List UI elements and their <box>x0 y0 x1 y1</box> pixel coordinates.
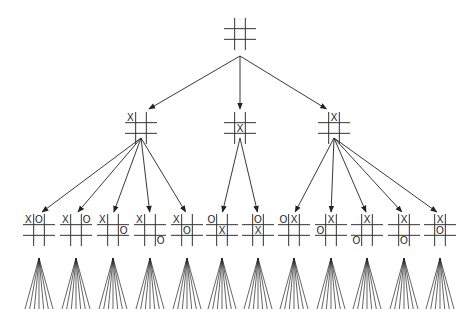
fan-line <box>258 258 267 309</box>
tree-boards: XXXXOXOXOXOXOOXOXOXXOXOXOXO <box>23 18 456 246</box>
subtree-fan <box>244 258 272 309</box>
level2-board: OX <box>278 214 310 246</box>
subtree-fan <box>136 258 164 309</box>
fan-line <box>178 258 187 309</box>
x-mark: X <box>364 214 371 225</box>
tree-edge-arrow <box>223 138 240 212</box>
tree-edge-arrow <box>114 138 141 212</box>
fan-line <box>331 258 340 309</box>
o-mark: O <box>279 214 287 225</box>
x-mark: X <box>237 123 244 134</box>
level2-board: XO <box>388 214 420 246</box>
level2-board: XO <box>23 214 55 246</box>
x-mark: X <box>291 214 298 225</box>
subtree-fan <box>280 258 308 309</box>
tree-edge-arrow <box>331 138 334 212</box>
x-mark: X <box>255 225 262 236</box>
tree-edge-arrow <box>141 138 150 212</box>
tree-edge-arrow <box>295 138 334 212</box>
level2-board: XO <box>97 214 129 246</box>
x-mark: X <box>331 112 338 123</box>
subtree-fan <box>208 258 236 309</box>
subtree-fans <box>25 258 454 309</box>
x-mark: X <box>127 112 134 123</box>
game-tree-diagram: XXXXOXOXOXOXOOXOXOXXOXOXOXO <box>0 0 475 330</box>
fan-line <box>213 258 222 309</box>
o-mark: O <box>352 235 360 246</box>
x-mark: X <box>62 214 69 225</box>
fan-line <box>76 258 85 309</box>
fan-line <box>431 258 440 309</box>
subtree-fan <box>173 258 201 309</box>
root-board <box>224 18 256 50</box>
tree-edge-arrow <box>334 138 402 212</box>
fan-line <box>222 258 231 309</box>
fan-line <box>440 258 449 309</box>
fan-line <box>322 258 331 309</box>
tree-edge-arrow <box>240 56 326 109</box>
subtree-fan <box>62 258 90 309</box>
level2-board: XO <box>351 214 383 246</box>
o-mark: O <box>83 214 91 225</box>
tree-edges <box>42 56 437 212</box>
o-mark: O <box>436 225 444 236</box>
tree-edge-arrow <box>240 138 257 212</box>
fan-line <box>104 258 113 309</box>
fan-line <box>187 258 196 309</box>
x-mark: X <box>437 214 444 225</box>
level2-board: XO <box>60 214 92 246</box>
level2-board: OX <box>206 214 238 246</box>
fan-line <box>285 258 294 309</box>
fan-line <box>113 258 122 309</box>
x-mark: X <box>136 214 143 225</box>
tree-edge-arrow <box>78 138 141 212</box>
o-mark: O <box>400 235 408 246</box>
x-mark: X <box>401 214 408 225</box>
fan-line <box>294 258 303 309</box>
subtree-fan <box>426 258 454 309</box>
fan-line <box>367 258 376 309</box>
level2-board: OX <box>242 214 274 246</box>
fan-line <box>67 258 76 309</box>
fan-line <box>150 258 159 309</box>
subtree-fan <box>317 258 345 309</box>
o-mark: O <box>207 214 215 225</box>
fan-line <box>141 258 150 309</box>
o-mark: O <box>120 225 128 236</box>
subtree-fan <box>353 258 381 309</box>
x-mark: X <box>25 214 32 225</box>
o-mark: O <box>35 214 43 225</box>
fan-line <box>395 258 404 309</box>
subtree-fan <box>25 258 53 309</box>
x-mark: X <box>219 225 226 236</box>
level2-board: XO <box>134 214 166 246</box>
tree-edge-arrow <box>141 138 186 212</box>
fan-line <box>30 258 39 309</box>
tree-edge-arrow <box>334 138 437 212</box>
level2-board: XO <box>315 214 347 246</box>
tree-edge-arrow <box>149 56 240 109</box>
o-mark: O <box>157 235 165 246</box>
o-mark: O <box>183 225 191 236</box>
subtree-fan <box>390 258 418 309</box>
fan-line <box>358 258 367 309</box>
x-mark: X <box>99 214 106 225</box>
subtree-fan <box>99 258 127 309</box>
tree-edge-arrow <box>42 138 141 212</box>
fan-line <box>404 258 413 309</box>
fan-line <box>249 258 258 309</box>
level2-board: XO <box>424 214 456 246</box>
x-mark: X <box>173 214 180 225</box>
level2-board: XO <box>171 214 203 246</box>
x-mark: X <box>328 214 335 225</box>
o-mark: O <box>316 225 324 236</box>
o-mark: O <box>254 214 262 225</box>
fan-line <box>39 258 48 309</box>
